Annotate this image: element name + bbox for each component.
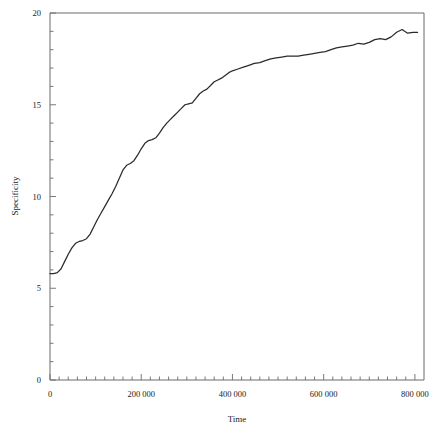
y-axis-title: Specificity (10, 176, 20, 215)
y-axis-tick-label: 5 (37, 283, 41, 293)
chart-figure: 05101520 0200 000400 000600 000800 000 S… (0, 0, 442, 433)
x-axis-title: Time (228, 414, 247, 424)
x-axis-tick-label: 400 000 (219, 389, 247, 399)
y-axis-tick-label: 0 (37, 375, 41, 385)
x-axis-tick-label: 0 (48, 389, 52, 399)
specificity-vs-time-line-chart: 05101520 0200 000400 000600 000800 000 S… (0, 0, 442, 433)
x-axis-tick-label: 800 000 (401, 389, 429, 399)
y-axis-tick-label: 15 (33, 100, 42, 110)
clipped-top-text (0, 0, 442, 1)
y-axis-tick-label: 10 (33, 192, 42, 202)
chart-background (0, 0, 442, 433)
x-axis-tick-label: 600 000 (310, 389, 338, 399)
y-axis-tick-label: 20 (33, 8, 42, 18)
x-axis-tick-label: 200 000 (127, 389, 155, 399)
